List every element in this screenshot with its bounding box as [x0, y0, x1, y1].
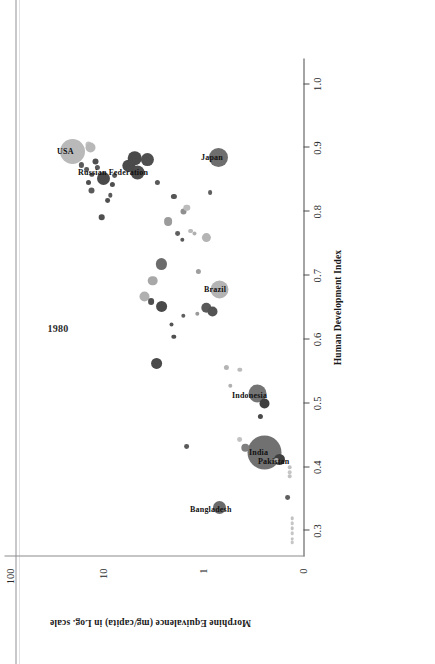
x-tick — [303, 83, 309, 84]
x-tick-label: 0.3 — [311, 524, 322, 538]
x-axis-line — [303, 58, 304, 556]
x-tick — [303, 146, 309, 147]
data-point — [92, 158, 98, 164]
x-tick — [303, 402, 309, 403]
point-label-indonesia: Indonesia — [232, 390, 267, 399]
data-point — [181, 313, 185, 317]
data-point — [241, 443, 249, 451]
x-tick-label: 1.0 — [311, 77, 322, 91]
x-tick — [303, 210, 309, 211]
data-point — [98, 214, 104, 220]
data-point — [163, 216, 172, 225]
data-point — [88, 187, 94, 193]
data-point — [207, 190, 212, 195]
data-point — [85, 180, 90, 185]
point-label-japan: Japan — [200, 152, 222, 161]
data-point — [290, 540, 294, 544]
data-point — [127, 151, 141, 165]
data-point — [147, 275, 157, 285]
data-point — [110, 182, 115, 187]
point-label-india: India — [249, 447, 268, 456]
point-label-pakistan: Pakistan — [258, 456, 289, 465]
x-tick-label: 0.9 — [311, 141, 322, 155]
x-tick-label: 0.5 — [311, 396, 322, 410]
data-point — [237, 437, 242, 442]
data-point — [259, 398, 269, 408]
scatter-plot-area: 0.30.40.50.60.70.80.91.0 0110100 USARuss… — [0, 0, 435, 664]
data-point — [290, 521, 294, 525]
x-tick-label: 0.6 — [311, 332, 322, 346]
year-annotation: 1980 — [47, 323, 68, 334]
data-point — [290, 531, 294, 535]
data-point — [290, 536, 294, 540]
y-tick-label: 10 — [98, 568, 109, 579]
data-point — [175, 231, 180, 236]
data-point — [287, 470, 291, 474]
data-point — [237, 367, 241, 371]
x-tick — [303, 466, 309, 467]
data-point — [228, 383, 232, 387]
x-tick-label: 0.4 — [311, 460, 322, 474]
y-tick-label: 100 — [5, 568, 16, 584]
data-point — [201, 232, 210, 241]
point-label-usa: USA — [56, 146, 73, 155]
x-tick — [303, 529, 309, 530]
data-point — [290, 526, 294, 530]
x-tick-label: 0.7 — [311, 268, 322, 282]
data-point — [184, 444, 189, 449]
data-point — [141, 152, 154, 165]
data-point — [104, 197, 109, 202]
x-tick — [303, 338, 309, 339]
data-point — [183, 204, 189, 210]
chart-page: 0.30.40.50.60.70.80.91.0 0110100 USARuss… — [0, 0, 435, 664]
data-point — [195, 269, 200, 274]
y-tick-label: 0 — [298, 568, 309, 573]
y-axis-line — [4, 555, 304, 556]
data-point — [169, 322, 173, 326]
data-point — [290, 516, 294, 520]
data-point — [155, 300, 166, 311]
data-point — [155, 179, 160, 184]
x-axis-title: Human Development Index — [332, 249, 342, 364]
data-point — [224, 364, 229, 369]
data-point — [79, 162, 84, 167]
data-point — [285, 495, 290, 500]
data-point — [171, 334, 175, 338]
x-tick-label: 0.8 — [311, 204, 322, 218]
data-point — [287, 474, 291, 478]
y-axis-title: Morphine Equivalence (mg/capita) in Log.… — [49, 617, 250, 627]
y-tick-label: 1 — [198, 568, 209, 573]
data-point — [195, 311, 199, 315]
data-point — [108, 192, 112, 196]
data-point — [179, 237, 183, 241]
data-point — [257, 414, 262, 419]
data-point — [192, 231, 196, 235]
point-label-brazil: Brazil — [204, 284, 226, 293]
data-point — [147, 297, 154, 304]
x-tick — [303, 274, 309, 275]
data-point — [171, 193, 176, 198]
rotated-chart-container: 0.30.40.50.60.70.80.91.0 0110100 USARuss… — [0, 0, 435, 664]
point-label-russian-federation: Russian Federation — [78, 167, 148, 176]
data-point — [207, 306, 217, 316]
point-label-bangladesh: Bangladesh — [190, 504, 232, 513]
data-point — [155, 258, 166, 269]
data-point — [151, 358, 162, 369]
data-point — [85, 142, 95, 152]
